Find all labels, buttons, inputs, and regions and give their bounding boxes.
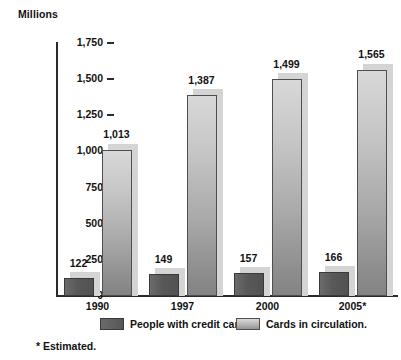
bar-people[interactable]: 122 [64, 278, 94, 296]
bar-value-label: 122 [70, 258, 88, 269]
bar-group: 1221,013 [57, 43, 142, 296]
bar-body [102, 150, 132, 296]
x-axis-category-label: 1997 [171, 300, 194, 312]
chart-footnote: * Estimated. [36, 340, 96, 352]
legend-item-cards-in-circulation: Cards in circulation. [236, 318, 367, 330]
bar-value-label: 157 [240, 253, 258, 264]
y-axis-title: Millions [18, 8, 58, 20]
bar-people[interactable]: 149 [149, 274, 179, 296]
bar-body [272, 79, 302, 296]
plot-area: 02505007501,0001,2501,5001,750 1221,0131… [57, 43, 397, 296]
bar-cards[interactable]: 1,013 [102, 150, 132, 296]
bar-group: 1571,499 [227, 43, 312, 296]
bar-value-label: 1,499 [273, 59, 299, 70]
legend-swatch-icon-people [100, 318, 124, 330]
bar-cards[interactable]: 1,565 [357, 70, 387, 296]
bar-chart: Millions 02505007501,0001,2501,5001,750 … [0, 0, 401, 360]
bar-cards[interactable]: 1,499 [272, 79, 302, 296]
x-axis-category-label: 2000 [256, 300, 279, 312]
bar-group: 1661,565 [312, 43, 397, 296]
bar-people[interactable]: 166 [319, 272, 349, 296]
legend-item-people-with-credit-cards: People with credit cards. [100, 318, 254, 330]
bar-value-label: 1,387 [188, 75, 214, 86]
bar-body [234, 273, 264, 296]
chart-legend: People with credit cards. Cards in circu… [0, 318, 401, 336]
bar-body [64, 278, 94, 296]
bar-people[interactable]: 157 [234, 273, 264, 296]
x-axis-category-label: 1990 [86, 300, 109, 312]
bar-cards[interactable]: 1,387 [187, 95, 217, 296]
legend-label-cards: Cards in circulation. [266, 318, 367, 330]
legend-swatch-icon-cards [236, 318, 260, 330]
bar-body [357, 70, 387, 296]
bar-group: 1491,387 [142, 43, 227, 296]
bar-value-label: 1,013 [103, 129, 129, 140]
bar-value-label: 1,565 [358, 49, 384, 60]
bar-body [187, 95, 217, 296]
bar-body [319, 272, 349, 296]
bar-value-label: 166 [325, 252, 343, 263]
bar-body [149, 274, 179, 296]
bar-value-label: 149 [155, 254, 173, 265]
x-axis-category-label: 2005* [339, 300, 366, 312]
